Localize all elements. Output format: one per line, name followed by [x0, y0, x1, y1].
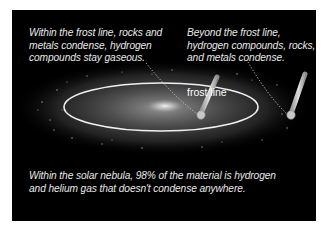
caption-within-frost-line: Within the frost line, rocks and metals … — [29, 27, 179, 65]
diagram-panel: Within the frost line, rocks and metals … — [12, 10, 316, 221]
frost-line-label: frost line — [187, 86, 227, 98]
protosun-glow — [145, 99, 185, 113]
caption-nebula-composition: Within the solar nebula, 98% of the mate… — [29, 170, 279, 195]
caption-beyond-frost-line: Beyond the frost line, hydrogen compound… — [187, 27, 316, 65]
